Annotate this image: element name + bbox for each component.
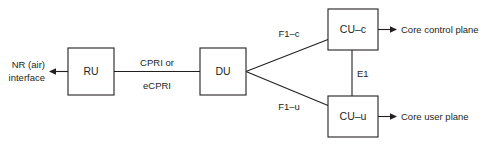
- network-architecture-diagram: RU DU CU–c CU–u NR (air) interface CPRI …: [0, 0, 494, 147]
- edge-label-fronthaul-line2: eCPRI: [143, 80, 171, 91]
- edge-line-f1c: [246, 40, 328, 72]
- edge-label-f1u: F1–u: [278, 101, 300, 112]
- arrow-head-right-core-control: [390, 26, 397, 33]
- node-label-ru: RU: [83, 65, 98, 77]
- arrow-head-right-core-user: [390, 113, 397, 120]
- arrow-head-left-air-interface: [49, 68, 56, 75]
- edge-label-f1c: F1–c: [278, 28, 299, 39]
- node-label-du: DU: [215, 65, 230, 77]
- edge-label-fronthaul-line1: CPRI or: [140, 57, 174, 68]
- edge-label-air-interface-line2: interface: [9, 72, 45, 83]
- edge-label-air-interface-line1: NR (air): [12, 59, 45, 70]
- edge-label-e1: E1: [357, 68, 369, 79]
- diagram-canvas: RU DU CU–c CU–u NR (air) interface CPRI …: [0, 0, 494, 147]
- endpoint-label-core-user-plane: Core user plane: [401, 111, 469, 122]
- node-label-cu-u: CU–u: [340, 110, 367, 122]
- endpoint-label-core-control-plane: Core control plane: [401, 24, 479, 35]
- node-label-cu-c: CU–c: [340, 23, 366, 35]
